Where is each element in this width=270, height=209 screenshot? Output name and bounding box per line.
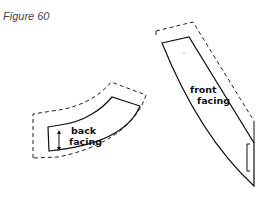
back-facing-label-1: back: [71, 125, 97, 136]
buttonhole-bracket: [247, 144, 250, 171]
figure: Figure 60 back facing front facing: [0, 0, 270, 209]
dot-mark: [183, 52, 184, 53]
front-facing-label-1: front: [190, 84, 217, 95]
grainline-arrow-icon: [57, 130, 61, 151]
back-facing-piece: back facing: [33, 82, 146, 158]
front-facing-piece: front facing: [156, 22, 254, 186]
back-facing-label-2: facing: [69, 136, 102, 147]
front-facing-label-2: facing: [197, 95, 230, 106]
front-facing-outline: [162, 37, 254, 186]
front-facing-seam-allowance: [156, 22, 254, 121]
pattern-diagram: back facing front facing: [0, 0, 270, 209]
